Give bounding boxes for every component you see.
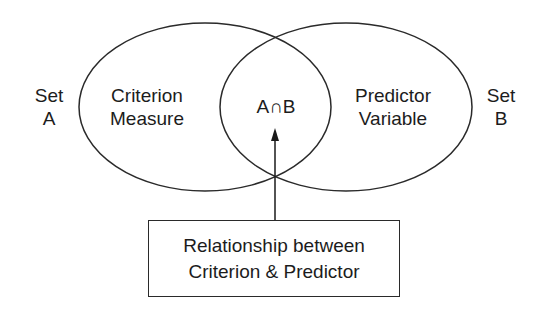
criterion-measure-label: Criterion Measure [92, 84, 202, 130]
predictor-variable-label: Predictor Variable [338, 84, 448, 130]
set-b-label: Set B [478, 84, 524, 130]
arrow-head-icon [271, 128, 279, 141]
relationship-callout-box: Relationship between Criterion & Predict… [148, 220, 400, 297]
intersection-label: A∩B [240, 95, 312, 118]
relationship-callout-text: Relationship between Criterion & Predict… [183, 233, 365, 285]
set-a-label: Set A [26, 84, 72, 130]
